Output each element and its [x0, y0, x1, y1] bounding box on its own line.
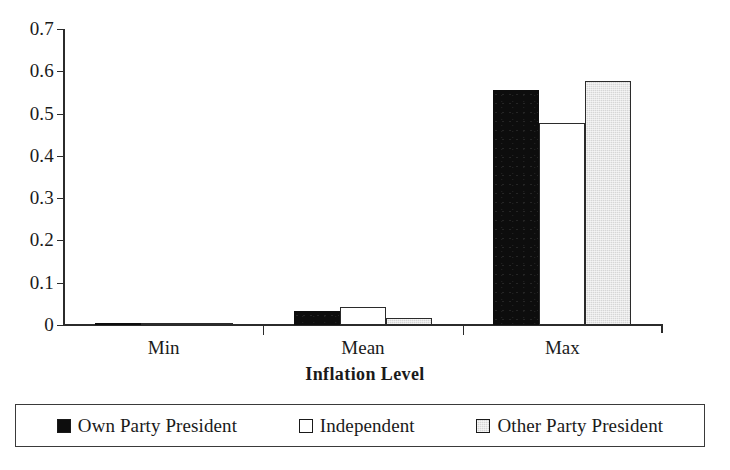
bar-mean-own-party-president: [294, 311, 340, 325]
y-axis-tick-label-wrap: 0.5: [0, 104, 54, 123]
legend-swatch-icon: [57, 419, 71, 433]
y-axis-tick-label: 0.4: [8, 146, 54, 165]
y-axis-tick-label-wrap: 0.1: [0, 273, 54, 292]
y-axis-tick-label: 0.5: [8, 104, 54, 123]
bar-mean-independent: [340, 307, 386, 325]
bar-chart-figure: 0.70.60.50.40.30.20.10 MinMeanMax Inflat…: [0, 0, 730, 470]
y-axis-tick-label: 0.2: [8, 230, 54, 249]
legend-swatch-icon: [299, 419, 313, 433]
bar-min-other-party-president: [187, 323, 233, 325]
bar-min-own-party-president: [95, 323, 141, 325]
y-axis-tick-label: 0: [8, 315, 54, 334]
legend-label: Independent: [320, 415, 415, 436]
x-axis-tick: [463, 326, 464, 335]
legend-label: Own Party President: [78, 415, 237, 436]
x-axis-label-mean: Mean: [293, 337, 433, 359]
legend-item-independent[interactable]: Independent: [299, 415, 415, 436]
bar-min-independent: [141, 323, 187, 325]
bar-max-independent: [539, 123, 585, 325]
y-axis-tick-label-wrap: 0.2: [0, 230, 54, 249]
y-axis-tick-label-wrap: 0: [0, 315, 54, 334]
y-axis-tick-label-wrap: 0.3: [0, 188, 54, 207]
x-axis-label-max: Max: [492, 337, 632, 359]
y-axis-tick-label: 0.1: [8, 273, 54, 292]
y-axis-tick-label: 0.7: [8, 19, 54, 38]
y-axis-tick-label-wrap: 0.7: [0, 19, 54, 38]
plot-area: [64, 29, 662, 325]
bar-max-other-party-president: [585, 81, 631, 325]
chart-legend: Own Party PresidentIndependentOther Part…: [15, 404, 705, 447]
x-axis-label-min: Min: [94, 337, 234, 359]
bar-mean-other-party-president: [386, 318, 432, 325]
x-axis-end-cap: [661, 324, 663, 333]
bar-max-own-party-president: [493, 90, 539, 325]
legend-item-other-party-president[interactable]: Other Party President: [476, 415, 663, 436]
legend-label: Other Party President: [497, 415, 663, 436]
y-axis-tick-label-wrap: 0.6: [0, 61, 54, 80]
y-axis-tick-label: 0.6: [8, 61, 54, 80]
y-axis-tick-label-wrap: 0.4: [0, 146, 54, 165]
x-axis-tick: [263, 326, 264, 335]
x-axis-title: Inflation Level: [0, 364, 730, 385]
y-axis-tick-label: 0.3: [8, 188, 54, 207]
legend-item-own-party-president[interactable]: Own Party President: [57, 415, 237, 436]
legend-swatch-icon: [476, 419, 490, 433]
